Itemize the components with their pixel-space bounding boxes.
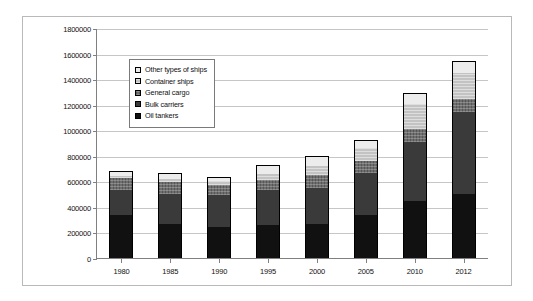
chart-container: 0200000400000600000800000100000012000001…: [22, 16, 512, 286]
bar-column[interactable]: 1995: [244, 29, 293, 258]
bar-segment[interactable]: [306, 166, 328, 175]
bar-segment[interactable]: [404, 94, 426, 104]
black-swatch-icon: [135, 113, 141, 119]
legend-item-label: Bulk carriers: [145, 100, 184, 109]
x-axis-tick-mark: [464, 259, 465, 263]
bar-segment[interactable]: [453, 194, 475, 258]
stacked-bar[interactable]: [256, 165, 280, 258]
stacked-bar[interactable]: [452, 61, 476, 258]
bar-segment[interactable]: [453, 62, 475, 74]
y-axis-tick-label: 400000: [67, 203, 91, 212]
legend-item-label: Oil tankers: [145, 111, 178, 120]
legend-item-container-ships: Container ships: [135, 76, 207, 88]
bar-segment[interactable]: [306, 157, 328, 166]
bar-segment[interactable]: [159, 182, 181, 194]
legend-item-other-types-of-ships: Other types of ships: [135, 64, 207, 76]
y-axis-tick-label: 0: [87, 255, 91, 264]
bar-segment[interactable]: [257, 190, 279, 225]
bar-segment[interactable]: [355, 161, 377, 173]
bar-segment[interactable]: [453, 73, 475, 99]
bar-column[interactable]: 2005: [341, 29, 390, 258]
legend-item-general-cargo: General cargo: [135, 87, 207, 99]
bar-segment[interactable]: [355, 215, 377, 258]
bar-segment[interactable]: [257, 180, 279, 190]
white-swatch-icon: [135, 67, 141, 73]
bar-segment[interactable]: [159, 194, 181, 224]
x-axis-tick-mark: [415, 259, 416, 263]
y-axis-tick-label: 1600000: [63, 50, 91, 59]
bar-segment[interactable]: [453, 112, 475, 194]
y-axis-tick-label: 200000: [67, 229, 91, 238]
chart-legend: Other types of ships Container ships Gen…: [129, 59, 215, 128]
bar-column[interactable]: 2000: [293, 29, 342, 258]
bar-segment[interactable]: [453, 99, 475, 112]
x-axis-tick-mark: [170, 259, 171, 263]
legend-item-label: Container ships: [145, 77, 193, 86]
x-axis-tick-mark: [121, 259, 122, 263]
bar-segment[interactable]: [257, 225, 279, 258]
bar-segment[interactable]: [404, 104, 426, 129]
y-axis-tick-label: 1000000: [63, 127, 91, 136]
x-axis-tick-mark: [219, 259, 220, 263]
bar-segment[interactable]: [110, 190, 132, 215]
bar-segment[interactable]: [110, 178, 132, 190]
dark-gray-swatch-icon: [135, 101, 141, 107]
bar-segment[interactable]: [355, 173, 377, 215]
bar-segment[interactable]: [208, 195, 230, 226]
y-axis-tick-label: 1800000: [63, 25, 91, 34]
x-axis-tick-label: 1995: [260, 267, 276, 276]
x-axis-tick-label: 2012: [456, 267, 472, 276]
bar-segment[interactable]: [404, 129, 426, 142]
y-axis-tick-label: 1200000: [63, 101, 91, 110]
stacked-bar[interactable]: [158, 173, 182, 258]
x-axis-tick-mark: [366, 259, 367, 263]
x-axis-tick-label: 1980: [113, 267, 129, 276]
stacked-bar[interactable]: [403, 93, 427, 258]
bar-segment[interactable]: [306, 175, 328, 188]
bar-segment[interactable]: [257, 166, 279, 174]
bar-segment[interactable]: [159, 224, 181, 258]
bar-segment[interactable]: [404, 142, 426, 200]
x-axis-tick-label: 2010: [407, 267, 423, 276]
y-axis-tick-label: 600000: [67, 178, 91, 187]
legend-item-bulk-carriers: Bulk carriers: [135, 99, 207, 111]
bar-segment[interactable]: [306, 188, 328, 224]
x-axis-tick-label: 1990: [211, 267, 227, 276]
bar-segment[interactable]: [110, 215, 132, 258]
bar-column[interactable]: 2012: [439, 29, 488, 258]
bar-segment[interactable]: [208, 185, 230, 195]
legend-item-label: Other types of ships: [145, 65, 207, 74]
bar-column[interactable]: 2010: [390, 29, 439, 258]
bar-segment[interactable]: [355, 148, 377, 161]
legend-item-oil-tankers: Oil tankers: [135, 110, 207, 122]
x-axis-tick-label: 1985: [162, 267, 178, 276]
y-axis-tick-mark: [93, 259, 97, 260]
y-axis-tick-label: 1400000: [63, 76, 91, 85]
bar-segment[interactable]: [355, 141, 377, 148]
stacked-bar[interactable]: [305, 156, 329, 258]
stacked-bar[interactable]: [207, 177, 231, 258]
x-axis-tick-label: 2000: [309, 267, 325, 276]
bar-segment[interactable]: [208, 227, 230, 258]
x-axis-tick-mark: [317, 259, 318, 263]
bar-segment[interactable]: [306, 224, 328, 259]
x-axis-tick-label: 2005: [358, 267, 374, 276]
stacked-bar[interactable]: [354, 140, 378, 258]
light-gray-swatch-icon: [135, 78, 141, 84]
bar-segment[interactable]: [404, 201, 426, 259]
stacked-bar[interactable]: [109, 171, 133, 258]
x-axis-tick-mark: [268, 259, 269, 263]
legend-item-label: General cargo: [145, 88, 189, 97]
y-axis-tick-label: 800000: [67, 152, 91, 161]
medium-gray-swatch-icon: [135, 90, 141, 96]
